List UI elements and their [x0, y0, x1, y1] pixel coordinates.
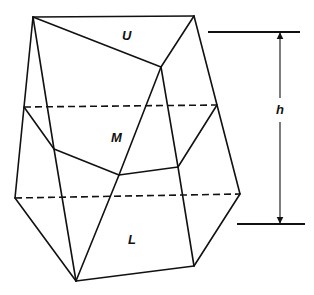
edge-mid-front-right — [119, 167, 178, 175]
prismoid-diagram: h U M L — [0, 0, 314, 295]
edge-top-diagonal — [33, 17, 161, 67]
edge-bottom-right — [194, 194, 240, 266]
lower-section-label: L — [128, 232, 136, 247]
middle-section-label: M — [111, 130, 123, 145]
edge-bottom-left — [15, 198, 76, 281]
upper-section-label: U — [122, 28, 132, 43]
edge-bottom — [76, 266, 194, 281]
height-label: h — [276, 102, 284, 117]
edge-top-right-inner — [161, 16, 194, 67]
section-line-lower — [15, 194, 240, 198]
edge-mid-left — [24, 107, 54, 149]
section-line-upper — [24, 105, 217, 107]
edge-mid-right — [178, 105, 217, 167]
edge-top — [33, 16, 194, 17]
edge-mid-front — [54, 149, 119, 175]
